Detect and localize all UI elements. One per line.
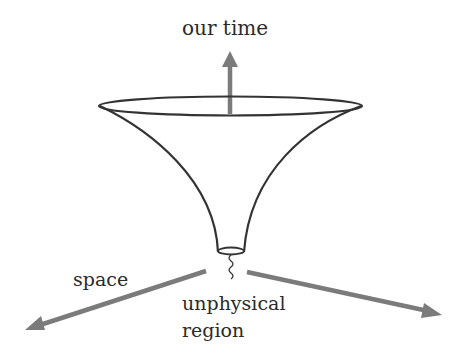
funnel-left-wall — [100, 106, 218, 252]
funnel-right-wall — [244, 106, 361, 252]
unphysical-region-label-line2: region — [182, 319, 244, 341]
space-axis-label: space — [73, 268, 128, 290]
time-arrow — [222, 51, 238, 114]
unphysical-region-label-line1: unphysical — [182, 292, 285, 314]
time-axis-label: our time — [182, 17, 268, 39]
bottom-neck-ellipse — [218, 248, 244, 255]
squiggle-line — [229, 255, 233, 279]
